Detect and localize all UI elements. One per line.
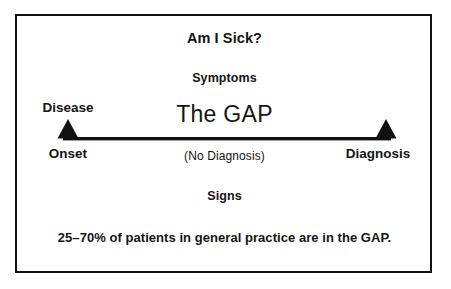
- label-signs: Signs: [17, 190, 432, 203]
- triangle-up-icon: [376, 119, 397, 139]
- axis-graphic: [57, 116, 397, 142]
- horizontal-rule-icon: [63, 137, 391, 140]
- axis-label-disease: Disease: [8, 101, 128, 115]
- heading-am-i-sick: Am I Sick?: [17, 31, 432, 46]
- triangle-up-icon: [58, 119, 79, 139]
- label-no-diagnosis: (No Diagnosis): [17, 150, 432, 162]
- gap-axis: [57, 116, 397, 142]
- gap-figure: Am I Sick? Symptoms The GAP Disease Onse…: [0, 0, 451, 289]
- label-symptoms: Symptoms: [17, 72, 432, 85]
- figure-caption: 25–70% of patients in general practice a…: [17, 231, 432, 244]
